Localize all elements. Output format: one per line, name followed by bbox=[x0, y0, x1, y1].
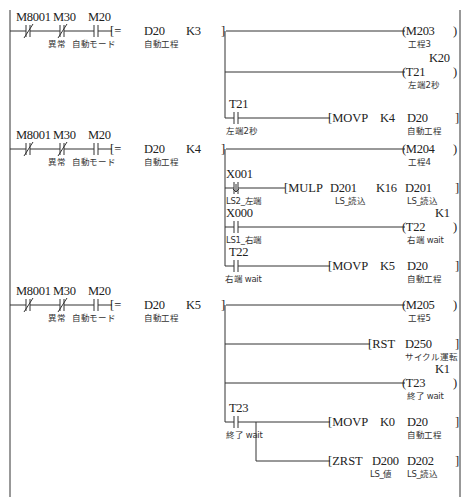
contact-m20[interactable]: M20 bbox=[88, 285, 111, 298]
compare-close: ] bbox=[221, 25, 225, 38]
contact-m20[interactable]: M20 bbox=[88, 11, 111, 24]
instr-close: ] bbox=[455, 112, 459, 125]
compare-close: ] bbox=[221, 143, 225, 156]
compare-s2[interactable]: K5 bbox=[186, 299, 201, 312]
contact-x001-comment: LS2_左端 bbox=[226, 197, 262, 206]
contact-m8001[interactable]: M8001 bbox=[16, 285, 51, 298]
instr-movp-arg2[interactable]: D20 bbox=[407, 112, 428, 125]
compare-s1-comment: 自動工程 bbox=[144, 40, 179, 49]
compare-s1-comment: 自動工程 bbox=[144, 314, 179, 323]
instr-rst-arg1-comment: サイクル運転 bbox=[405, 353, 457, 362]
comment-m30: 異常 bbox=[48, 158, 65, 167]
instr-close: ] bbox=[455, 416, 459, 429]
instr-zrst-arg2-comment: LS_読込 bbox=[407, 470, 438, 479]
compare-s2[interactable]: K4 bbox=[186, 143, 201, 156]
instr-rst[interactable]: [RST bbox=[368, 338, 395, 351]
instr-mulp[interactable]: [MULP bbox=[284, 182, 323, 195]
contact-m30[interactable]: M30 bbox=[53, 285, 76, 298]
compare-s1[interactable]: D20 bbox=[144, 25, 165, 38]
instr-movp-arg1[interactable]: K4 bbox=[380, 112, 395, 125]
instr-close: ] bbox=[455, 338, 459, 351]
timer-t22-setting[interactable]: K1 bbox=[435, 207, 450, 220]
coil-t22-comment: 右端 wait bbox=[407, 236, 443, 245]
contact-m8001[interactable]: M8001 bbox=[16, 129, 51, 142]
instr-zrst-arg1-comment: LS_値 bbox=[370, 470, 392, 479]
contact-x000-comment: LS1_右端 bbox=[226, 236, 262, 245]
contact-t21-comment: 左端2秒 bbox=[226, 127, 257, 136]
instr-movp-arg2[interactable]: D20 bbox=[407, 260, 428, 273]
coil-m204-comment: 工程4 bbox=[408, 158, 431, 167]
contact-t23[interactable]: T23 bbox=[229, 402, 248, 415]
instr-zrst-arg1[interactable]: D200 bbox=[372, 455, 399, 468]
instr-movp[interactable]: [MOVP bbox=[328, 112, 368, 125]
coil-close: ) bbox=[453, 143, 457, 156]
instr-rst-arg1[interactable]: D250 bbox=[405, 338, 432, 351]
coil-close: ) bbox=[453, 66, 457, 79]
instr-movp-arg2[interactable]: D20 bbox=[407, 416, 428, 429]
timer-t23-setting[interactable]: K1 bbox=[435, 363, 450, 376]
comment-m20: 自動モード bbox=[72, 40, 116, 49]
contact-t22-comment: 右端 wait bbox=[225, 275, 261, 284]
instr-close: ] bbox=[455, 260, 459, 273]
timer-t21-setting[interactable]: K20 bbox=[429, 52, 450, 65]
comment-m20: 自動モード bbox=[72, 314, 116, 323]
instr-mulp-arg3[interactable]: D201 bbox=[405, 182, 432, 195]
instr-movp[interactable]: [MOVP bbox=[328, 416, 368, 429]
comment-m20: 自動モード bbox=[72, 158, 116, 167]
contact-t23-comment: 終了 wait bbox=[226, 431, 262, 440]
compare-op[interactable]: [= bbox=[110, 25, 121, 38]
instr-movp-arg2-comment: 自動工程 bbox=[407, 127, 442, 136]
comment-m30: 異常 bbox=[48, 314, 65, 323]
instr-zrst[interactable]: [ZRST bbox=[328, 455, 363, 468]
instr-movp[interactable]: [MOVP bbox=[328, 260, 368, 273]
compare-s1[interactable]: D20 bbox=[144, 143, 165, 156]
instr-zrst-arg2[interactable]: D202 bbox=[407, 455, 434, 468]
coil-t21[interactable]: (T21 bbox=[402, 66, 425, 79]
instr-mulp-arg1[interactable]: D201 bbox=[330, 182, 357, 195]
contact-t22[interactable]: T22 bbox=[229, 246, 248, 259]
compare-s1-comment: 自動工程 bbox=[144, 158, 179, 167]
instr-close: ] bbox=[455, 455, 459, 468]
coil-t23[interactable]: (T23 bbox=[402, 377, 425, 390]
coil-close: ) bbox=[453, 221, 457, 234]
coil-m205[interactable]: (M205 bbox=[402, 299, 435, 312]
contact-m20[interactable]: M20 bbox=[88, 129, 111, 142]
compare-op[interactable]: [= bbox=[110, 143, 121, 156]
coil-t23-comment: 終了 wait bbox=[407, 392, 443, 401]
coil-m203[interactable]: (M203 bbox=[402, 25, 435, 38]
instr-movp-arg1[interactable]: K0 bbox=[380, 416, 395, 429]
contact-t21[interactable]: T21 bbox=[229, 98, 248, 111]
coil-close: ) bbox=[453, 25, 457, 38]
contact-x001[interactable]: X001 bbox=[226, 168, 253, 181]
contact-m8001[interactable]: M8001 bbox=[16, 11, 51, 24]
contact-m30[interactable]: M30 bbox=[53, 129, 76, 142]
compare-s1[interactable]: D20 bbox=[144, 299, 165, 312]
instr-movp-arg1[interactable]: K5 bbox=[380, 260, 395, 273]
coil-m204[interactable]: (M204 bbox=[402, 143, 435, 156]
instr-mulp-arg3-comment: LS_読込 bbox=[407, 197, 438, 206]
instr-mulp-arg2[interactable]: K16 bbox=[376, 182, 397, 195]
instr-close: ] bbox=[455, 182, 459, 195]
ladder-diagram: M8001 M30 M20 異常 自動モード [= D20 自動工程 K3 ] … bbox=[0, 0, 472, 497]
coil-close: ) bbox=[453, 377, 457, 390]
coil-m203-comment: 工程3 bbox=[408, 40, 431, 49]
instr-movp-arg2-comment: 自動工程 bbox=[407, 275, 442, 284]
instr-movp-arg2-comment: 自動工程 bbox=[407, 431, 442, 440]
compare-close: ] bbox=[221, 299, 225, 312]
coil-m205-comment: 工程5 bbox=[408, 314, 431, 323]
contact-x000[interactable]: X000 bbox=[226, 207, 253, 220]
compare-s2[interactable]: K3 bbox=[186, 25, 201, 38]
coil-t22[interactable]: (T22 bbox=[402, 221, 425, 234]
comment-m30: 異常 bbox=[48, 40, 65, 49]
compare-op[interactable]: [= bbox=[110, 299, 121, 312]
contact-m30[interactable]: M30 bbox=[53, 11, 76, 24]
coil-t21-comment: 左端2秒 bbox=[408, 81, 439, 90]
coil-close: ) bbox=[453, 299, 457, 312]
instr-mulp-arg1-comment: LS_読込 bbox=[335, 197, 366, 206]
